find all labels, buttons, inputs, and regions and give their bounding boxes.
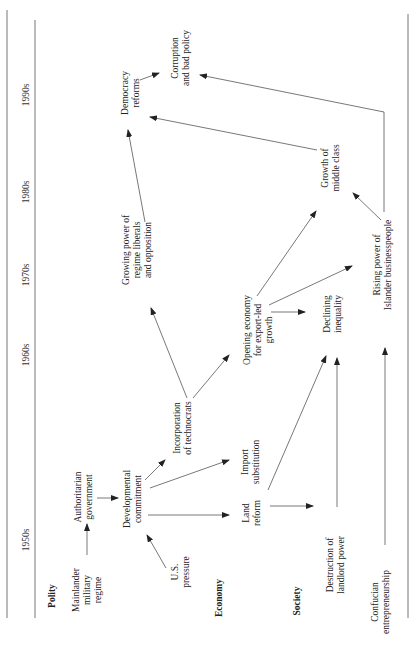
svg-text:Opening economy: Opening economy: [242, 295, 252, 365]
svg-text:commitment: commitment: [133, 475, 143, 523]
svg-text:Declining: Declining: [322, 295, 332, 333]
svg-text:Import: Import: [240, 449, 250, 475]
svg-text:military: military: [82, 575, 92, 605]
svg-text:pressure: pressure: [181, 556, 191, 588]
decade-1980s: 1980s: [21, 180, 31, 203]
causal-diagram: 1950s 1960s 1970s 1980s 1990s Polity Eco…: [0, 0, 415, 645]
node-destruction-landlord: Destruction of landlord power: [325, 535, 346, 594]
svg-text:and bad policy: and bad policy: [181, 30, 191, 86]
svg-text:growth: growth: [264, 316, 274, 343]
svg-text:Developmental: Developmental: [122, 470, 132, 528]
svg-text:inequality: inequality: [333, 295, 343, 333]
node-incorporation: Incorporation of technocrats: [172, 401, 193, 455]
svg-text:Democracy: Democracy: [120, 71, 130, 115]
node-growing-power: Growing power of regime liberals and opp…: [121, 214, 153, 285]
svg-text:Growing power of: Growing power of: [121, 214, 131, 285]
svg-text:Authoritarian: Authoritarian: [73, 471, 83, 522]
svg-text:U.S.: U.S.: [170, 564, 180, 581]
node-us-pressure: U.S. pressure: [170, 556, 191, 588]
svg-text:reforms: reforms: [131, 78, 141, 108]
edge-growthmiddle-democracy: [150, 117, 317, 150]
edge-growingpower-democracy: [128, 130, 145, 222]
edge-rising-corruption: [200, 75, 384, 212]
edge-developmental-incorporation: [145, 460, 165, 480]
row-polity: Polity: [47, 584, 57, 608]
edge-opening-growthmiddle: [257, 211, 316, 296]
decade-headers: 1950s 1960s 1970s 1980s 1990s: [21, 83, 31, 551]
svg-text:Islander businesspeople: Islander businesspeople: [383, 220, 393, 311]
svg-text:landlord power: landlord power: [336, 535, 346, 594]
svg-text:Corruption: Corruption: [170, 37, 180, 79]
node-declining-inequality: Declining inequality: [322, 295, 343, 333]
svg-text:Confucian: Confucian: [370, 582, 380, 622]
svg-text:Rising power of: Rising power of: [372, 234, 382, 296]
svg-text:Mainlander: Mainlander: [71, 567, 81, 612]
node-corruption: Corruption and bad policy: [170, 30, 191, 86]
edge-landreform-declining: [268, 356, 326, 490]
node-authoritarian: Authoritarian government: [73, 471, 94, 522]
node-democracy: Democracy reforms: [120, 71, 141, 115]
svg-text:and opposition: and opposition: [143, 222, 153, 278]
svg-text:of technocrats: of technocrats: [183, 401, 193, 455]
row-society: Society: [292, 586, 302, 615]
node-land-reform: Land reform: [241, 499, 262, 525]
edge-democracy-corruption: [140, 73, 159, 80]
svg-text:Growth of: Growth of: [320, 148, 330, 188]
node-import-substitution: Import substitution: [240, 440, 261, 485]
svg-text:Incorporation: Incorporation: [172, 402, 182, 454]
decade-1970s: 1970s: [21, 263, 31, 286]
svg-text:reform: reform: [252, 499, 262, 525]
svg-text:regime liberals: regime liberals: [132, 221, 142, 278]
row-economy: Economy: [214, 579, 224, 617]
edge-incorporation-opening: [193, 355, 229, 398]
node-growth-middle-class: Growth of middle class: [320, 144, 341, 192]
edge-uspressure-developmental: [147, 535, 166, 568]
decade-1960s: 1960s: [21, 343, 31, 366]
node-confucian: Confucian entrepreneurship: [370, 570, 391, 634]
edge-developmental-import: [150, 460, 229, 488]
node-rising-power: Rising power of Islander businesspeople: [372, 220, 393, 311]
svg-text:entrepreneurship: entrepreneurship: [381, 570, 391, 634]
svg-text:Land: Land: [241, 503, 251, 523]
node-mainlander: Mainlander military regime: [71, 567, 103, 612]
svg-text:for export-led: for export-led: [253, 304, 263, 357]
svg-text:Destruction of: Destruction of: [325, 537, 335, 592]
svg-text:government: government: [84, 474, 94, 520]
svg-text:substitution: substitution: [251, 440, 261, 485]
decade-1990s: 1990s: [21, 83, 31, 106]
node-developmental: Developmental commitment: [122, 470, 143, 528]
edge-incorporation-growingpower: [151, 308, 187, 398]
decade-1950s: 1950s: [21, 528, 31, 551]
svg-text:regime: regime: [93, 577, 103, 603]
edge-rising-growthmiddle: [353, 193, 381, 220]
svg-text:middle class: middle class: [331, 144, 341, 192]
